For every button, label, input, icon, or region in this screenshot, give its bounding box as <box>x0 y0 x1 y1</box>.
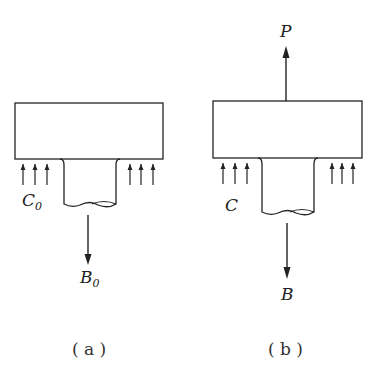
label-p: P <box>279 21 292 41</box>
label-c: C <box>225 195 238 215</box>
stem-b <box>258 158 318 215</box>
block-a <box>15 103 163 159</box>
label-c0: C0 <box>22 190 42 213</box>
block-b <box>213 101 362 158</box>
label-b: B <box>280 284 294 304</box>
pressure-arrows-b <box>223 163 353 184</box>
figure-a: C0 B0 ( a ) <box>15 103 163 359</box>
stem-a <box>60 159 120 207</box>
figure-b: P C B ( b ) <box>213 21 362 359</box>
diagram-canvas: C0 B0 ( a ) P C B ( b ) <box>0 0 379 374</box>
caption-a: ( a ) <box>72 339 106 359</box>
pressure-arrows-a <box>23 164 153 185</box>
caption-b: ( b ) <box>268 339 303 359</box>
label-b0: B0 <box>79 267 100 290</box>
